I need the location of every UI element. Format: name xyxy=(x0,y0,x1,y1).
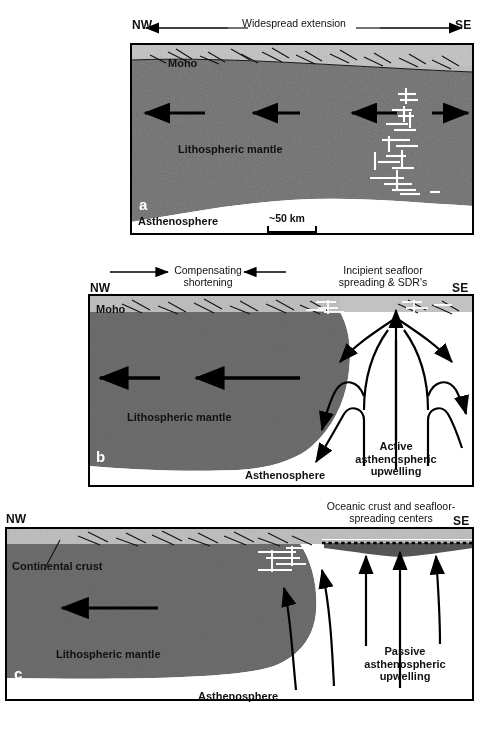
cross-section-diagram xyxy=(0,0,490,744)
panel-b-label-moho: Moho xyxy=(96,303,125,315)
panel-c-top-annotation: Oceanic crust and seafloor- spreading ce… xyxy=(316,500,466,524)
panel-a-label-lithospheric-mantle: Lithospheric mantle xyxy=(178,143,283,155)
panel-b-direction-se: SE xyxy=(452,281,468,295)
panel-a-label-moho: Moho xyxy=(168,57,197,69)
panel-a-direction-se: SE xyxy=(455,18,471,32)
panel-c-letter: c xyxy=(14,665,22,682)
panel-c-label-asthenosphere: Asthenosphere xyxy=(198,690,278,702)
panel-c-label-lithospheric-mantle: Lithospheric mantle xyxy=(56,648,161,660)
panel-b-direction-nw: NW xyxy=(90,281,110,295)
panel-a-top-annotation: Widespread extension xyxy=(231,17,357,29)
panel-b-label-lithospheric-mantle: Lithospheric mantle xyxy=(127,411,232,423)
panel-b-label-upwelling: Active asthenospheric upwelling xyxy=(343,440,449,478)
panel-a-direction-nw: NW xyxy=(132,18,152,32)
panel-b-right-annotation: Incipient seafloor spreading & SDR's xyxy=(316,264,450,288)
panel-c-direction-nw: NW xyxy=(6,512,26,526)
panel-b-label-asthenosphere: Asthenosphere xyxy=(245,469,325,481)
panel-c-label-upwelling: Passive asthenospheric upwelling xyxy=(353,645,457,683)
panel-c-label-continental-crust: Continental crust xyxy=(12,560,102,572)
panel-a-label-asthenosphere: Asthenosphere xyxy=(138,215,218,227)
panel-a-scale-bar-label: ~50 km xyxy=(269,212,305,224)
panel-a-letter: a xyxy=(139,196,147,213)
panel-b-letter: b xyxy=(96,448,105,465)
panel-b-left-annotation: Compensating shortening xyxy=(168,264,248,288)
figure-root: NW SE Widespread extension Moho Lithosph… xyxy=(0,0,490,744)
